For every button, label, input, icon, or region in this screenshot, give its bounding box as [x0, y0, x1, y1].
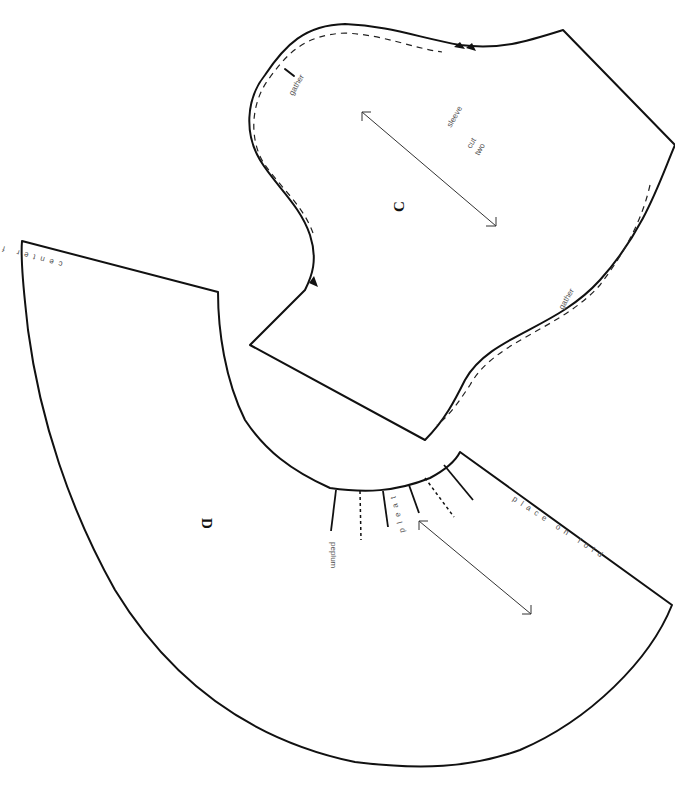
pleat-line	[444, 465, 473, 500]
piece-c-sleeve: gather gather sleeve cut two C	[249, 24, 675, 440]
pleat-line-dashed	[360, 491, 361, 540]
pleat-line	[331, 490, 336, 531]
grainline-arrow-icon	[419, 521, 531, 614]
peplum-label: peplum	[329, 542, 338, 569]
pleat-label: pleat	[387, 491, 407, 534]
gather-mark	[285, 69, 294, 76]
peplum-cut-line	[22, 241, 672, 766]
piece-letter-d: D	[199, 518, 215, 529]
piece-letter-c: C	[391, 201, 407, 212]
pleat-line-dashed	[425, 478, 454, 517]
gather-label-top: gather	[287, 73, 306, 97]
pattern-sheet: gather gather sleeve cut two C center fr…	[0, 0, 675, 793]
pleat-line	[409, 485, 419, 513]
place-on-fold-label: place on fold	[511, 494, 608, 562]
piece-d-peplum: center front place on fold pleat peplum …	[0, 234, 672, 766]
grainline-arrow-icon	[362, 112, 496, 226]
sleeve-seam-line	[254, 33, 650, 425]
sleeve-label: sleeve	[445, 104, 465, 129]
gather-label-bottom: gather	[557, 287, 576, 311]
center-front-label: center front	[0, 234, 64, 269]
